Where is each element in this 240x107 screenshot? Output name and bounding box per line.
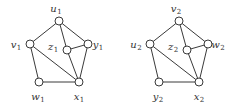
node-label-z2: z2 [167, 41, 178, 54]
node-z1 [63, 46, 71, 54]
node-label-y2: y2 [152, 91, 164, 104]
edge-x1-y1 [79, 44, 88, 82]
node-label-subscript: 1 [40, 96, 44, 104]
node-v1 [26, 40, 34, 48]
node-z2 [183, 46, 191, 54]
node-label-subscript: 2 [174, 46, 178, 54]
node-x1 [75, 78, 83, 86]
node-v2 [175, 17, 183, 25]
edge-u1-v1 [30, 21, 59, 44]
node-label-subscript: 2 [200, 96, 204, 104]
node-label-subscript: 2 [137, 44, 141, 52]
node-label-subscript: 1 [17, 44, 21, 52]
node-label-u2: u2 [130, 39, 141, 52]
node-x2 [195, 78, 203, 86]
node-w1 [35, 78, 43, 86]
node-label-x2: x2 [194, 91, 205, 104]
edge-v2-u2 [150, 21, 179, 44]
node-label-subscript: 1 [57, 8, 61, 16]
node-label-y1: y1 [92, 39, 104, 52]
node-label-w1: w1 [31, 91, 45, 104]
node-label-subscript: 2 [159, 96, 163, 104]
graph-1: u1v1z1y1w1x1 [11, 3, 104, 104]
edge-u1-y1 [59, 21, 88, 44]
node-label-subscript: 1 [80, 96, 84, 104]
graph-diagram: u1v1z1y1w1x1v2u2z2w2y2x2 [0, 0, 240, 107]
node-label-u1: u1 [50, 3, 61, 16]
node-label-z1: z1 [47, 41, 58, 54]
node-y2 [155, 78, 163, 86]
node-label-subscript: 1 [99, 44, 103, 52]
edge-v2-w2 [179, 21, 208, 44]
edge-u1-z1 [59, 21, 67, 50]
graph-2: v2u2z2w2y2x2 [130, 3, 224, 104]
node-label-v1: v1 [11, 39, 22, 52]
node-label-subscript: 1 [54, 46, 58, 54]
edge-v2-z2 [179, 21, 187, 50]
node-label-v2: v2 [171, 3, 182, 16]
node-u1 [55, 17, 63, 25]
node-u2 [146, 40, 154, 48]
edge-x2-w2 [199, 44, 208, 82]
node-y1 [84, 40, 92, 48]
node-label-subscript: 2 [177, 8, 181, 16]
node-label-x1: x1 [74, 91, 85, 104]
node-label-w2: w2 [211, 39, 225, 52]
node-label-subscript: 2 [220, 44, 224, 52]
